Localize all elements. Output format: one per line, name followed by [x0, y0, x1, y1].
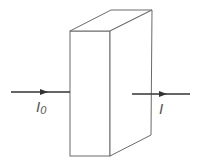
slab-side-face	[110, 10, 152, 156]
transmitted-label-main: I	[159, 100, 163, 117]
incident-intensity-label: I0	[36, 99, 46, 116]
diagram-canvas: I0 I	[0, 0, 200, 166]
incident-label-subscript: 0	[40, 104, 46, 116]
slab-diagram	[0, 0, 200, 166]
transmitted-intensity-label: I	[159, 101, 163, 116]
transmitted-arrowhead-icon	[159, 91, 167, 97]
slab-front-face	[70, 31, 110, 156]
incident-arrowhead-icon	[40, 89, 48, 95]
